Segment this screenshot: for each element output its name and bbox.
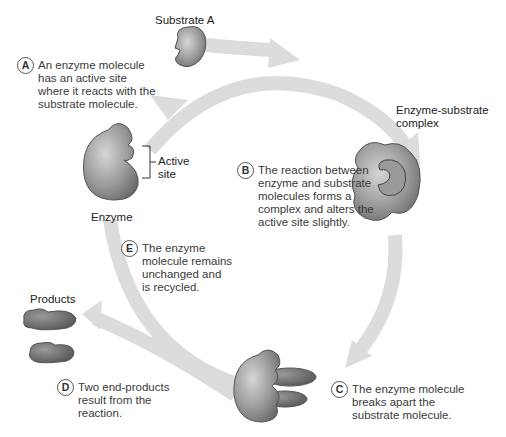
step-d-text: Two end-products result from the reactio… [78, 381, 169, 420]
step-e-badge: E [121, 240, 138, 257]
enzyme-shape [84, 123, 139, 200]
step-a-badge: A [17, 57, 34, 74]
arrow-substrate-in [205, 45, 270, 50]
complex-label: Enzyme-substrate complex [396, 104, 489, 130]
arrowhead-substrate [268, 38, 300, 68]
step-e: E The enzyme molecule remains unchanged … [121, 242, 232, 294]
breakdown-shape [234, 350, 316, 422]
step-b-badge: B [237, 162, 254, 179]
step-d: D Two end-products result from the react… [57, 381, 169, 420]
arrow-enzyme-to-complex [150, 83, 405, 150]
substrate-label: Substrate A [155, 14, 214, 27]
step-b-text: The reaction between enzyme and substrat… [258, 164, 374, 229]
products-shapes [24, 309, 76, 363]
arrowhead-products [82, 300, 102, 330]
step-c-badge: C [331, 381, 348, 398]
step-e-text: The enzyme molecule remains unchanged an… [142, 242, 232, 294]
products-label: Products [30, 293, 75, 306]
active-site-label: Active site [158, 155, 189, 181]
step-d-badge: D [57, 379, 74, 396]
step-a-text: An enzyme molecule has an active site wh… [38, 59, 156, 111]
step-b: B The reaction between enzyme and substr… [237, 164, 374, 229]
arrow-complex-to-breakdown [360, 235, 396, 350]
substrate-a-shape [175, 26, 206, 66]
enzyme-label: Enzyme [91, 211, 133, 224]
step-c: C The enzyme molecule breaks apart the s… [331, 383, 465, 422]
step-c-text: The enzyme molecule breaks apart the sub… [352, 383, 465, 422]
step-a: A An enzyme molecule has an active site … [17, 59, 156, 111]
enzyme-cycle-diagram: Substrate A Enzyme-substrate complex Act… [0, 0, 506, 437]
